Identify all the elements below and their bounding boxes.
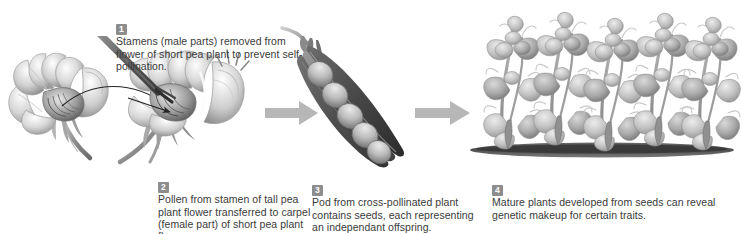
step-badge-1: 1 — [116, 24, 127, 35]
caption-step-4: 4Mature plants developed from seeds can … — [492, 170, 740, 221]
caption-step-3-text: Pod from cross-pollinated plant contains… — [312, 196, 480, 233]
caption-step-2-text: Pollen from stamen of tall pea plant flo… — [158, 193, 318, 234]
caption-step-1-text: Stamens (male parts) removed from flower… — [116, 35, 316, 72]
mature-pea-plant — [682, 17, 741, 150]
step-badge-3: 3 — [312, 185, 323, 196]
short-pea-flower — [9, 53, 108, 158]
figure-canvas: 1Stamens (male parts) removed from flowe… — [0, 0, 741, 234]
step-badge-2: 2 — [158, 182, 169, 193]
pea-seeds — [302, 56, 396, 168]
caption-step-1: 1Stamens (male parts) removed from flowe… — [116, 9, 316, 72]
step-badge-4: 4 — [492, 185, 503, 196]
caption-step-2: 2Pollen from stamen of tall pea plant fl… — [158, 167, 318, 234]
caption-step-4-text: Mature plants developed from seeds can r… — [492, 196, 740, 221]
illustration-mature-plants-panel — [462, 8, 741, 168]
caption-step-3: 3Pod from cross-pollinated plant contain… — [312, 170, 480, 233]
